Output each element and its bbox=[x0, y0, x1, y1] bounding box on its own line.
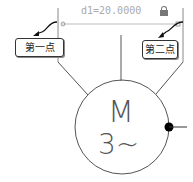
wire-right bbox=[156, 62, 183, 94]
motor-phase: 3~ bbox=[98, 128, 139, 161]
callout-arrow-1 bbox=[36, 22, 57, 34]
wire-left bbox=[58, 62, 88, 95]
callout-second-point: 第二点 bbox=[142, 40, 178, 59]
callout-first-point: 第一点 bbox=[15, 38, 64, 57]
dimension-label: d1=20.0000 bbox=[81, 5, 141, 16]
motor-symbol: M bbox=[108, 94, 134, 129]
motor-diagram bbox=[0, 0, 193, 182]
lock-icon bbox=[160, 6, 168, 16]
